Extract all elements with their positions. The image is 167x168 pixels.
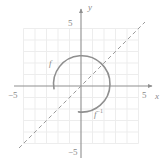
y-axis-name-label: y	[88, 3, 92, 12]
x-axis-max-tick-label: 5	[142, 91, 147, 100]
graph-figure: 5 −5 5 −5 y x f f−1	[0, 0, 167, 168]
y-axis-min-tick-label: −5	[68, 148, 78, 157]
curve-label-f-inverse-exponent: −1	[97, 108, 103, 114]
curve-label-f-inverse: f−1	[94, 108, 103, 119]
function-arc-curve	[54, 56, 110, 112]
identity-line-y-equals-x	[19, 22, 145, 148]
x-axis-min-tick-label: −5	[8, 91, 18, 100]
curve-label-f: f	[49, 59, 52, 68]
x-axis-name-label: x	[155, 92, 159, 101]
y-axis-max-tick-label: 5	[68, 19, 73, 28]
coordinate-plane	[0, 0, 167, 168]
